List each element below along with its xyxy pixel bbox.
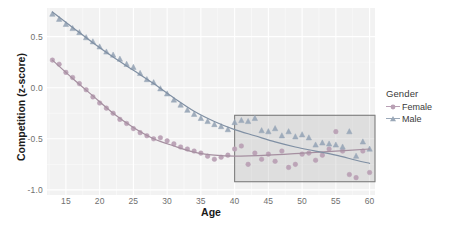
x-tick-label: 50 [297,196,307,206]
triangle-marker-icon [386,114,400,124]
y-tick-label: -1.0 [28,185,43,195]
legend-label: Female [402,102,432,112]
legend-label: Male [402,114,422,124]
x-tick-label: 25 [128,196,138,206]
x-tick-label: 60 [365,196,375,206]
y-tick-label: -0.5 [28,134,43,144]
x-tick-label: 45 [263,196,273,206]
y-tick-label: 0.0 [31,83,43,93]
x-tick-label: 15 [61,196,71,206]
y-axis-title: Competition (z-score) [15,12,27,202]
x-tick-label: 55 [331,196,341,206]
x-axis-title: Age [47,206,375,218]
legend: Gender FemaleMale [386,88,448,124]
chart-figure: 0.50.0-0.5-1.0 Competition (z-score) Age… [0,0,449,234]
circle-marker-icon [386,102,400,112]
x-tick-label: 20 [95,196,105,206]
legend-title: Gender [386,88,448,99]
x-tick-label: 30 [162,196,172,206]
legend-item-male[interactable]: Male [386,113,448,124]
x-tick-label: 40 [230,196,240,206]
plot-panel [47,8,375,195]
legend-item-female[interactable]: Female [386,101,448,112]
y-tick-label: 0.5 [31,32,43,42]
x-tick-label: 35 [196,196,206,206]
